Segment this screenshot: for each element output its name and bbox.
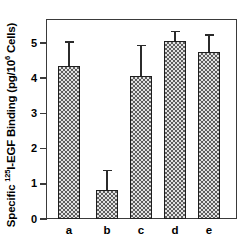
figure-root: Specific 125I-EGF Binding (pg/106 Cells)… [0,0,252,252]
bar-a [58,66,80,219]
y-axis-label-superscript-isotope: 125 [3,170,12,182]
error-bar-line-e [208,34,210,52]
error-bar-cap-b [103,170,112,172]
error-bar-cap-a [65,41,74,43]
x-tick-label-d: d [165,224,185,236]
bar-b [96,190,118,219]
y-tick-label-1: 1 [21,178,37,189]
bar-d [164,41,186,219]
y-tick-label-3: 3 [21,108,37,119]
y-tick-label-4: 4 [21,73,37,84]
x-tick-label-b: b [97,224,117,236]
error-bar-cap-e [205,34,214,36]
x-tick-label-e: e [199,224,219,236]
bar-c [130,76,152,219]
x-tick-label-c: c [131,224,151,236]
y-axis-label-middle: I-EGF Binding (pg/10 [5,60,17,170]
error-bar-line-a [68,41,70,66]
y-axis-label: Specific 125I-EGF Binding (pg/106 Cells) [0,10,22,240]
error-bar-line-b [106,170,108,190]
x-tick-label-a: a [59,224,79,236]
error-bar-line-c [140,45,142,77]
y-tick-label-5: 5 [21,38,37,49]
y-axis-label-prefix: Specific [5,182,17,228]
error-bar-cap-c [137,45,146,47]
y-axis-label-suffix: Cells) [5,23,17,56]
y-axis-label-superscript-exponent: 6 [3,56,12,60]
y-axis-label-container: Specific 125I-EGF Binding (pg/106 Cells) [0,0,22,252]
error-bar-cap-d [171,31,180,33]
y-tick-label-0: 0 [21,214,37,225]
bar-e [198,52,220,219]
y-tick-label-2: 2 [21,143,37,154]
